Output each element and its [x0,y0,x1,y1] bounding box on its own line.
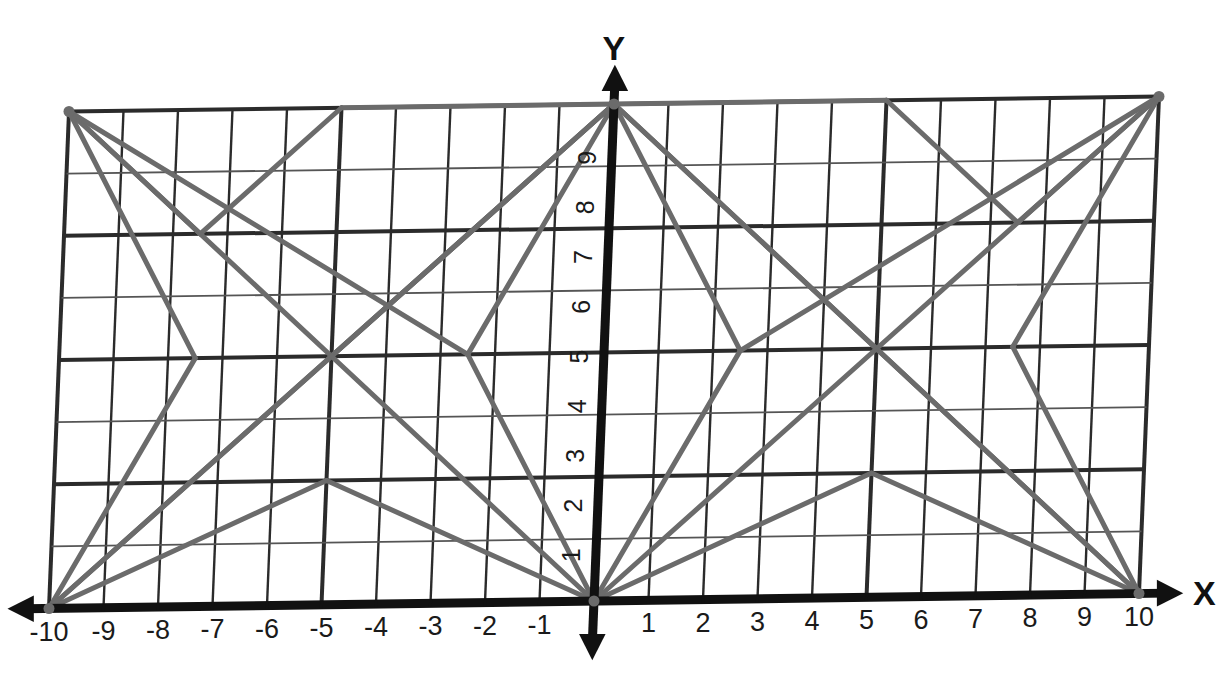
figure-vertex-dot [609,99,620,110]
x-tick-label: 9 [1077,602,1092,632]
y-axis-arrow-up [602,65,629,91]
x-tick-label: -8 [146,615,170,645]
x-tick-label: 10 [1124,602,1154,632]
figure-segment [872,473,1140,594]
figure-vertex-dot [64,106,75,117]
coordinate-plane-figure: -10-9-8-7-6-5-4-3-2-11234567891012345678… [0,0,1225,688]
x-tick-label: 5 [859,605,874,635]
x-tick-label: 2 [695,608,710,638]
figure-segment [614,100,887,104]
x-tick-label: -9 [91,616,115,646]
figure-segment [49,481,327,609]
y-tick-label: 6 [567,300,595,314]
x-tick-label: -7 [200,614,224,644]
figure-vertex-dot [44,603,55,614]
x-tick-label: -3 [418,611,442,641]
x-tick-label: 8 [1022,603,1037,633]
y-tick-label: 7 [569,250,597,264]
y-axis-arrow-down [579,634,606,660]
plot-svg: -10-9-8-7-6-5-4-3-2-11234567891012345678… [0,0,1225,688]
figure-vertex-dot [1154,91,1165,102]
y-tick-label: 5 [565,350,593,364]
x-tick-label: 1 [641,608,656,638]
figure-segment [342,104,615,108]
y-tick-label: 3 [561,449,589,463]
x-tick-label: 3 [750,607,765,637]
y-axis-name-label: Y [603,29,626,67]
x-tick-label: 6 [913,605,928,635]
figure-vertex-dot [1134,588,1145,599]
x-tick-label: -5 [309,613,333,643]
x-axis-name-label: X [1193,574,1216,612]
y-tick-label: 4 [563,399,591,413]
x-tick-label: -1 [527,610,551,640]
x-tick-label: 4 [804,606,819,636]
x-tick-label: -6 [255,614,279,644]
y-tick-label: 8 [571,200,599,214]
x-tick-label: -4 [364,612,388,642]
figure-segment [594,473,872,601]
x-tick-label: -2 [473,611,497,641]
x-tick-label: 7 [968,604,983,634]
x-axis-arrow-right [1157,580,1183,607]
y-tick-label: 9 [573,151,601,165]
y-tick-label: 2 [559,499,587,513]
figure-segment [327,481,595,602]
figure-vertex-dot [589,596,600,607]
x-tick-label: -10 [29,617,68,647]
y-tick-label: 1 [557,548,585,562]
